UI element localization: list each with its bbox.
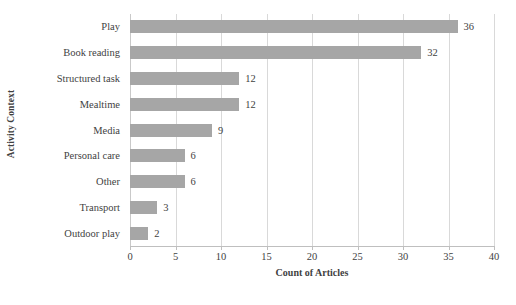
tick-mark bbox=[358, 246, 359, 250]
tick-mark bbox=[312, 246, 313, 250]
bar bbox=[130, 98, 239, 111]
tick-mark bbox=[267, 246, 268, 250]
tick-label: 20 bbox=[307, 251, 318, 262]
bar-row: 12 bbox=[130, 66, 494, 92]
category-label: Transport bbox=[18, 194, 126, 220]
tick-label: 35 bbox=[443, 251, 454, 262]
x-axis-title: Count of Articles bbox=[130, 267, 494, 278]
y-axis-title-text: Activity Context bbox=[6, 90, 16, 158]
tick-label: 40 bbox=[489, 251, 500, 262]
category-label: Structured task bbox=[18, 66, 126, 92]
bar bbox=[130, 72, 239, 85]
tick-label: 30 bbox=[398, 251, 409, 262]
bar-value-label: 6 bbox=[191, 150, 196, 161]
category-label: Media bbox=[18, 117, 126, 143]
tick-mark bbox=[403, 246, 404, 250]
tick-mark bbox=[176, 246, 177, 250]
x-axis-ticks: 0510152025303540 bbox=[130, 246, 494, 266]
y-axis-category-labels: PlayBook readingStructured taskMealtimeM… bbox=[18, 14, 126, 246]
bar bbox=[130, 20, 458, 33]
category-label: Mealtime bbox=[18, 91, 126, 117]
bar-value-label: 36 bbox=[464, 21, 475, 32]
bar-row: 12 bbox=[130, 91, 494, 117]
bar-value-label: 12 bbox=[245, 73, 256, 84]
category-label: Play bbox=[18, 14, 126, 40]
bar-chart-figure: Activity Context PlayBook readingStructu… bbox=[0, 0, 516, 305]
bar-value-label: 12 bbox=[245, 99, 256, 110]
tick-label: 10 bbox=[216, 251, 227, 262]
bar-row: 32 bbox=[130, 40, 494, 66]
category-label: Personal care bbox=[18, 143, 126, 169]
bar-value-label: 6 bbox=[191, 176, 196, 187]
tick-label: 0 bbox=[127, 251, 132, 262]
figure-caption bbox=[6, 296, 506, 305]
bar-row: 3 bbox=[130, 194, 494, 220]
bar-value-label: 32 bbox=[427, 47, 438, 58]
bar-rows: 3632121296632 bbox=[130, 14, 494, 246]
category-label: Book reading bbox=[18, 40, 126, 66]
bar bbox=[130, 175, 185, 188]
plot-area: 3632121296632 bbox=[130, 14, 494, 246]
bar-row: 9 bbox=[130, 117, 494, 143]
tick-mark bbox=[449, 246, 450, 250]
tick-mark bbox=[221, 246, 222, 250]
bar bbox=[130, 46, 421, 59]
bar bbox=[130, 201, 157, 214]
category-label: Outdoor play bbox=[18, 220, 126, 246]
tick-label: 5 bbox=[173, 251, 178, 262]
category-label: Other bbox=[18, 169, 126, 195]
bar-row: 2 bbox=[130, 220, 494, 246]
bar-value-label: 2 bbox=[154, 228, 159, 239]
bar-row: 6 bbox=[130, 169, 494, 195]
bar-value-label: 3 bbox=[163, 202, 168, 213]
bar-row: 6 bbox=[130, 143, 494, 169]
tick-label: 15 bbox=[261, 251, 272, 262]
bar-value-label: 9 bbox=[218, 125, 223, 136]
bar bbox=[130, 149, 185, 162]
bar bbox=[130, 124, 212, 137]
bar bbox=[130, 227, 148, 240]
tick-mark bbox=[130, 246, 131, 250]
bar-row: 36 bbox=[130, 14, 494, 40]
tick-mark bbox=[494, 246, 495, 250]
tick-label: 25 bbox=[352, 251, 363, 262]
gridline-40 bbox=[494, 14, 495, 246]
